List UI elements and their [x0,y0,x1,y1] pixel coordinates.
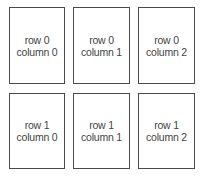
cell-row-label: row 1 [89,119,114,131]
grid-cell-r1-c0: row 1 column 0 [9,93,65,169]
cell-row-label: row 1 [25,119,50,131]
cell-row-label: row 1 [154,119,179,131]
grid-cell-r0-c0: row 0 column 0 [9,7,65,84]
grid-cell-r1-c1: row 1 column 1 [73,93,130,169]
grid-cell-r1-c2: row 1 column 2 [138,93,195,169]
grid-cell-r0-c2: row 0 column 2 [138,7,195,84]
grid-cell-r0-c1: row 0 column 1 [73,7,130,84]
cell-column-label: column 2 [146,131,187,143]
cell-column-label: column 1 [81,46,122,58]
cell-row-label: row 0 [89,34,114,46]
cell-column-label: column 2 [146,46,187,58]
cell-row-label: row 0 [25,34,50,46]
cell-row-label: row 0 [154,34,179,46]
cell-column-label: column 1 [81,131,122,143]
cell-column-label: column 0 [16,46,57,58]
cell-column-label: column 0 [16,131,57,143]
